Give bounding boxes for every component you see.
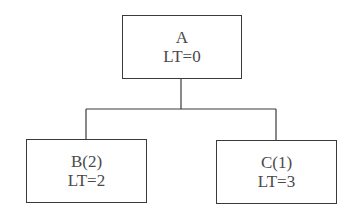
node-b-label: B(2) xyxy=(71,152,102,171)
node-a: A LT=0 xyxy=(122,15,242,79)
tree-diagram: A LT=0 B(2) LT=2 C(1) LT=3 xyxy=(0,0,351,214)
node-a-lt: LT=0 xyxy=(163,47,200,66)
node-c: C(1) LT=3 xyxy=(216,140,337,204)
node-b-lt: LT=2 xyxy=(68,171,105,190)
node-c-lt: LT=3 xyxy=(258,172,295,191)
node-b: B(2) LT=2 xyxy=(26,139,147,203)
node-a-label: A xyxy=(176,28,188,47)
node-c-label: C(1) xyxy=(261,153,292,172)
